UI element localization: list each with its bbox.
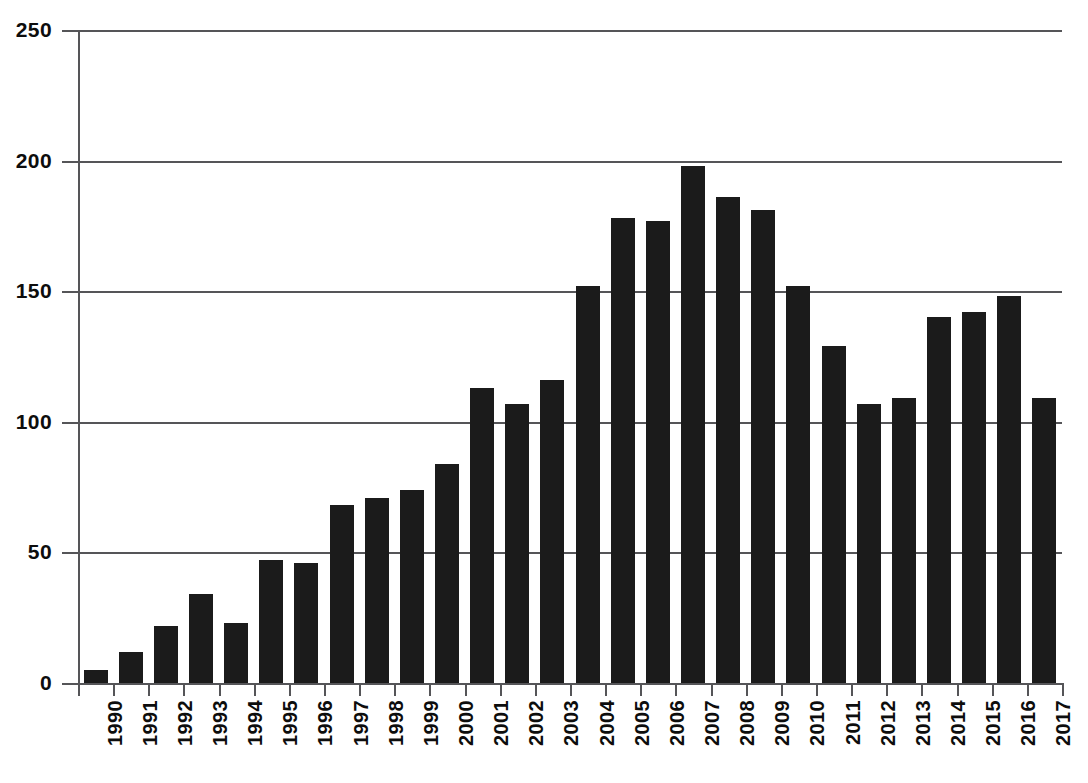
- x-tick-label: 2006: [666, 700, 689, 746]
- y-axis-labels: 050100150200250: [0, 0, 52, 783]
- bar: [84, 670, 108, 683]
- x-tick-mark: [113, 683, 115, 696]
- x-tick-label: 2011: [842, 700, 865, 745]
- bar: [997, 296, 1021, 683]
- bar: [224, 623, 248, 683]
- bar: [119, 652, 143, 683]
- x-tick-mark: [640, 683, 642, 696]
- gridline: [78, 291, 1062, 293]
- bar: [822, 346, 846, 683]
- x-tick-mark: [183, 683, 185, 696]
- x-tick-label: 2002: [525, 700, 548, 746]
- x-tick-mark: [675, 683, 677, 696]
- y-tick-label: 0: [40, 671, 52, 695]
- x-tick-mark: [746, 683, 748, 696]
- x-tick-label: 2008: [736, 700, 759, 746]
- bar: [400, 490, 424, 683]
- bar: [716, 197, 740, 683]
- x-tick-mark: [148, 683, 150, 696]
- x-tick-mark: [219, 683, 221, 696]
- x-tick-label: 1993: [209, 700, 232, 746]
- bar: [892, 398, 916, 683]
- bar: [470, 388, 494, 683]
- x-tick-mark: [1062, 683, 1064, 696]
- x-tick-label: 2001: [490, 700, 513, 746]
- x-tick-label: 1999: [420, 700, 443, 746]
- x-tick-mark: [465, 683, 467, 696]
- gridline: [78, 161, 1062, 163]
- x-tick-label: 2013: [912, 700, 935, 746]
- x-tick-mark: [394, 683, 396, 696]
- gridline: [78, 30, 1062, 32]
- bar: [1032, 398, 1056, 683]
- x-tick-mark: [886, 683, 888, 696]
- bar: [330, 505, 354, 683]
- bar: [365, 498, 389, 683]
- bar: [786, 286, 810, 683]
- x-tick-label: 1992: [174, 700, 197, 746]
- x-tick-mark: [289, 683, 291, 696]
- y-tick-label: 50: [28, 540, 52, 564]
- y-tick-label: 100: [16, 410, 52, 434]
- x-tick-mark: [1027, 683, 1029, 696]
- bar: [576, 286, 600, 683]
- y-tick-mark: [62, 291, 78, 293]
- bar: [189, 594, 213, 683]
- bar-chart: 050100150200250 199019911992199319941995…: [0, 0, 1088, 783]
- x-tick-label: 2010: [806, 700, 829, 746]
- y-tick-mark: [62, 552, 78, 554]
- x-tick-mark: [570, 683, 572, 696]
- bar: [259, 560, 283, 683]
- x-tick-label: 2017: [1052, 700, 1075, 746]
- bar: [505, 404, 529, 683]
- bar: [681, 166, 705, 683]
- x-tick-mark: [992, 683, 994, 696]
- x-tick-label: 2000: [455, 700, 478, 746]
- plot-area: [78, 30, 1062, 683]
- y-tick-label: 150: [16, 279, 52, 303]
- x-tick-mark: [500, 683, 502, 696]
- bar: [435, 464, 459, 683]
- bar: [962, 312, 986, 683]
- y-tick-mark: [62, 683, 78, 685]
- x-tick-label: 2004: [596, 700, 619, 746]
- x-tick-mark: [429, 683, 431, 696]
- y-tick-mark: [62, 161, 78, 163]
- x-tick-mark: [324, 683, 326, 696]
- x-tick-mark: [921, 683, 923, 696]
- x-tick-mark: [359, 683, 361, 696]
- bar: [751, 210, 775, 683]
- y-tick-label: 250: [16, 18, 52, 42]
- x-tick-label: 2012: [877, 700, 900, 746]
- x-tick-mark: [254, 683, 256, 696]
- x-tick-mark: [535, 683, 537, 696]
- y-axis-line: [78, 30, 80, 685]
- x-tick-label: 2015: [982, 700, 1005, 746]
- x-tick-mark: [851, 683, 853, 696]
- bar: [540, 380, 564, 683]
- bar: [154, 626, 178, 683]
- x-tick-label: 1998: [385, 700, 408, 746]
- x-tick-label: 1991: [139, 700, 162, 746]
- x-tick-label: 2007: [701, 700, 724, 746]
- x-tick-mark: [957, 683, 959, 696]
- x-tick-label: 2014: [947, 700, 970, 746]
- x-tick-label: 1996: [314, 700, 337, 746]
- x-tick-mark: [605, 683, 607, 696]
- x-tick-mark: [816, 683, 818, 696]
- bar: [646, 221, 670, 683]
- x-tick-label: 2009: [771, 700, 794, 746]
- x-tick-label: 1995: [279, 700, 302, 746]
- x-tick-label: 2003: [560, 700, 583, 746]
- x-tick-label: 1990: [104, 700, 127, 746]
- y-tick-mark: [62, 422, 78, 424]
- x-tick-label: 2016: [1017, 700, 1040, 746]
- bar: [294, 563, 318, 683]
- x-tick-label: 2005: [631, 700, 654, 746]
- y-tick-label: 200: [16, 149, 52, 173]
- x-tick-mark: [711, 683, 713, 696]
- bar: [611, 218, 635, 683]
- x-tick-label: 1997: [350, 700, 373, 746]
- x-tick-mark: [781, 683, 783, 696]
- x-tick-mark: [78, 683, 80, 696]
